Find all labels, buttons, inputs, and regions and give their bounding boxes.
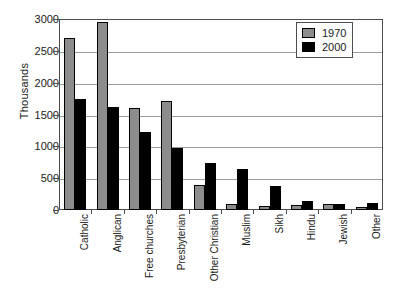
- bar-group: [253, 19, 285, 210]
- y-tick-label: 3000: [11, 13, 59, 25]
- bar-group: [351, 19, 383, 210]
- x-tick-label: Free churches: [144, 214, 155, 278]
- y-tick-label: 1500: [11, 109, 59, 121]
- bar-group: [124, 19, 156, 210]
- bar: [64, 38, 75, 210]
- x-tick-label: Other Christian: [209, 214, 220, 281]
- bar-group: [221, 19, 253, 210]
- bar: [129, 108, 140, 210]
- y-tick-label: 2000: [11, 77, 59, 89]
- bar: [75, 99, 86, 210]
- bar: [291, 205, 302, 210]
- bar: [97, 22, 108, 210]
- bar: [270, 186, 281, 210]
- bar: [226, 204, 237, 210]
- legend-label: 1970: [322, 28, 346, 39]
- bar-chart: Thousands 050010001500200025003000 Catho…: [0, 0, 402, 302]
- legend-swatch-icon: [302, 42, 315, 52]
- bar: [259, 206, 270, 210]
- x-axis-labels: CatholicAnglicanFree churchesPresbyteria…: [59, 214, 383, 302]
- bar: [356, 207, 367, 210]
- bar: [161, 101, 172, 211]
- y-axis: 050010001500200025003000: [0, 0, 59, 302]
- bar: [323, 204, 334, 210]
- x-tick-mark: [351, 210, 352, 214]
- x-tick-label: Presbyterian: [176, 214, 187, 270]
- x-tick-mark: [124, 210, 125, 214]
- x-tick-mark: [253, 210, 254, 214]
- bar: [172, 148, 183, 210]
- x-tick-mark: [189, 210, 190, 214]
- bar-group: [189, 19, 221, 210]
- bar: [140, 132, 151, 210]
- x-tick-mark: [318, 210, 319, 214]
- x-tick-label: Catholic: [79, 214, 90, 250]
- bar-group: [59, 19, 91, 210]
- bar: [108, 107, 119, 210]
- bar-group: [91, 19, 123, 210]
- bar: [367, 203, 378, 210]
- x-tick-mark: [286, 210, 287, 214]
- bar: [237, 169, 248, 210]
- legend-item: 1970: [302, 26, 346, 40]
- x-tick-mark: [156, 210, 157, 214]
- x-tick-label: Sikh: [274, 214, 285, 233]
- legend-item: 2000: [302, 40, 346, 54]
- bar-group: [156, 19, 188, 210]
- y-tick-mark: [53, 210, 59, 211]
- x-tick-label: Other: [371, 214, 382, 239]
- legend-label: 2000: [322, 42, 346, 53]
- bar: [334, 204, 345, 210]
- x-tick-label: Jewish: [338, 214, 349, 245]
- x-tick-label: Anglican: [112, 214, 123, 252]
- x-tick-mark: [91, 210, 92, 214]
- bar: [194, 185, 205, 210]
- y-tick-label: 0: [11, 204, 59, 216]
- y-tick-label: 500: [11, 172, 59, 184]
- y-tick-label: 1000: [11, 140, 59, 152]
- bar: [205, 163, 216, 210]
- x-tick-label: Muslim: [241, 214, 252, 246]
- x-tick-mark: [221, 210, 222, 214]
- y-tick-label: 2500: [11, 45, 59, 57]
- legend: 1970 2000: [296, 22, 353, 58]
- legend-swatch-icon: [302, 28, 315, 38]
- bar: [302, 201, 313, 210]
- x-tick-label: Hindu: [306, 214, 317, 240]
